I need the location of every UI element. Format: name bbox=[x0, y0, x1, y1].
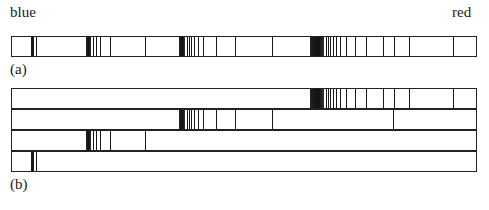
panel-a-label: (a) bbox=[10, 61, 27, 77]
spectral-line bbox=[330, 89, 331, 108]
spectral-line bbox=[145, 37, 146, 56]
spectral-line bbox=[235, 37, 236, 56]
panel-b-label: (b) bbox=[10, 176, 28, 192]
spectral-line bbox=[333, 89, 334, 108]
spectral-line bbox=[96, 37, 97, 56]
series-limit-band bbox=[310, 89, 324, 108]
spectral-line bbox=[383, 37, 384, 56]
blue-end-label: blue bbox=[10, 4, 36, 20]
spectral-line bbox=[340, 89, 341, 108]
spectral-line bbox=[198, 110, 199, 129]
spectral-line bbox=[36, 37, 37, 56]
spectral-line bbox=[272, 110, 273, 129]
spectral-line bbox=[216, 110, 217, 129]
series-limit-band bbox=[31, 152, 34, 171]
spectral-line bbox=[383, 89, 384, 108]
spectral-line bbox=[189, 37, 190, 56]
spectral-line bbox=[326, 89, 327, 108]
spectral-line bbox=[330, 37, 331, 56]
spectral-line bbox=[216, 37, 217, 56]
spectral-line bbox=[394, 37, 395, 56]
spectral-line bbox=[194, 37, 195, 56]
spectral-line bbox=[326, 37, 327, 56]
spectral-line bbox=[235, 110, 236, 129]
spectral-line bbox=[409, 89, 410, 108]
spectral-line bbox=[453, 89, 454, 108]
spectral-line bbox=[346, 37, 347, 56]
spectral-line bbox=[187, 37, 188, 56]
spectral-line bbox=[346, 89, 347, 108]
spectral-line bbox=[336, 89, 337, 108]
spectral-line bbox=[355, 37, 356, 56]
spectral-line bbox=[453, 37, 454, 56]
spectral-line bbox=[189, 110, 190, 129]
spectral-line bbox=[328, 89, 329, 108]
spectral-line bbox=[272, 37, 273, 56]
spectral-line bbox=[93, 131, 94, 150]
spectral-line bbox=[96, 131, 97, 150]
spectral-line bbox=[191, 37, 192, 56]
spectral-line bbox=[145, 131, 146, 150]
spectral-line bbox=[366, 89, 367, 108]
series-limit-band bbox=[86, 37, 91, 56]
spectrum-bar-a bbox=[11, 36, 477, 57]
spectrum-row-4 bbox=[11, 151, 477, 172]
spectrum-row-2 bbox=[11, 109, 477, 130]
series-limit-band bbox=[179, 37, 185, 56]
spectral-line bbox=[393, 110, 394, 129]
spectral-line bbox=[198, 37, 199, 56]
spectral-line bbox=[110, 37, 111, 56]
spectral-line bbox=[355, 89, 356, 108]
spectral-line bbox=[191, 110, 192, 129]
spectral-line bbox=[110, 131, 111, 150]
spectral-line bbox=[93, 37, 94, 56]
series-limit-band bbox=[31, 37, 34, 56]
spectral-line bbox=[194, 110, 195, 129]
spectral-line bbox=[100, 37, 101, 56]
spectrum-row-1 bbox=[11, 88, 477, 109]
red-end-label: red bbox=[452, 4, 471, 20]
spectral-line bbox=[409, 37, 410, 56]
spectral-line bbox=[203, 37, 204, 56]
spectral-line bbox=[394, 89, 395, 108]
series-limit-band bbox=[310, 37, 324, 56]
spectral-line bbox=[36, 152, 37, 171]
series-limit-band bbox=[86, 131, 91, 150]
spectral-line bbox=[336, 37, 337, 56]
series-limit-band bbox=[179, 110, 185, 129]
spectrum-row-3 bbox=[11, 130, 477, 151]
spectral-line bbox=[100, 131, 101, 150]
spectral-line bbox=[328, 37, 329, 56]
spectral-line bbox=[366, 37, 367, 56]
spectral-line bbox=[187, 110, 188, 129]
spectral-line bbox=[203, 110, 204, 129]
spectral-line bbox=[333, 37, 334, 56]
spectral-line bbox=[340, 37, 341, 56]
